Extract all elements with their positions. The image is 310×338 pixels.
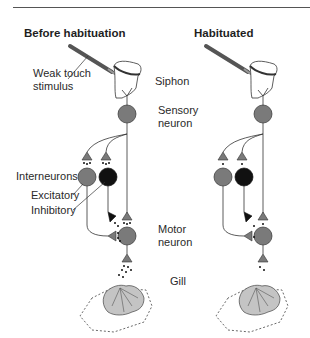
habituation-circuit-diagram xyxy=(0,0,310,338)
circuit-before xyxy=(70,46,152,332)
circuit-habituated xyxy=(206,46,288,332)
